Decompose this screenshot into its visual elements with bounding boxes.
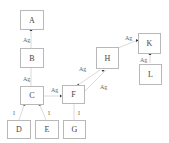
node-label: K	[147, 39, 153, 48]
node-label: D	[16, 125, 22, 134]
edge-label-h-k: Ag	[125, 35, 132, 41]
diagram-canvas: A B C D E F G H K L Ag Ag I I Ag I Ag Ag…	[0, 0, 169, 143]
edge-e-c	[40, 105, 46, 120]
edge-label-c-b: Ag	[23, 76, 30, 82]
edge-label-b-a: Ag	[23, 37, 30, 43]
node-e[interactable]: E	[35, 120, 59, 139]
edge-label-c-f: Ag	[51, 87, 58, 93]
node-d[interactable]: D	[7, 120, 31, 139]
node-label: H	[105, 54, 111, 63]
edge-label-f-h-1: Ag	[79, 66, 86, 72]
node-label: C	[29, 91, 34, 100]
node-k[interactable]: K	[138, 33, 161, 54]
node-label: G	[72, 125, 78, 134]
node-h[interactable]: H	[96, 47, 119, 69]
edge-label-g-f: I	[78, 110, 80, 116]
edge-label-e-c: I	[48, 110, 50, 116]
node-label: E	[45, 125, 50, 134]
node-label: A	[29, 16, 35, 25]
edge-f-h-1	[78, 70, 100, 85]
node-label: B	[29, 54, 34, 63]
node-g[interactable]: G	[63, 120, 86, 139]
node-b[interactable]: B	[20, 48, 44, 68]
edge-label-d-c: I	[13, 110, 15, 116]
edge-label-l-k: Ag	[140, 57, 147, 63]
edge-label-f-h-2: Ag	[100, 84, 107, 90]
node-label: F	[71, 90, 75, 99]
node-a[interactable]: A	[20, 10, 44, 30]
edge-d-c	[19, 105, 24, 120]
node-l[interactable]: L	[139, 64, 162, 85]
node-label: L	[148, 70, 153, 79]
node-f[interactable]: F	[62, 85, 85, 104]
node-c[interactable]: C	[20, 86, 44, 105]
